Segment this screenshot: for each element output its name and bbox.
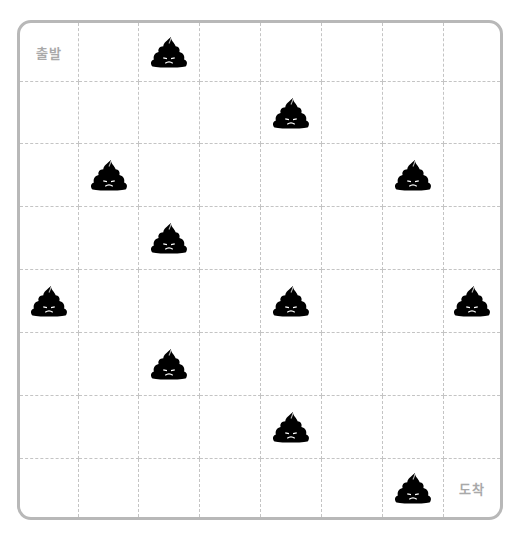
grid-cell[interactable] <box>261 270 322 333</box>
poop-icon <box>272 410 310 444</box>
grid-cell[interactable] <box>79 333 139 396</box>
start-label: 출발 <box>36 43 62 62</box>
grid-cell[interactable] <box>79 82 139 144</box>
grid-cell[interactable] <box>79 23 139 82</box>
grid-cell[interactable] <box>139 459 200 517</box>
grid-cell[interactable] <box>20 396 79 459</box>
game-board: 출발 <box>17 20 503 520</box>
grid-cell[interactable] <box>139 333 200 396</box>
grid-cell[interactable] <box>383 396 444 459</box>
grid-cell[interactable] <box>200 270 261 333</box>
grid-cell[interactable] <box>444 82 500 144</box>
grid-cell[interactable] <box>322 333 383 396</box>
grid-cell[interactable] <box>261 333 322 396</box>
grid-cell[interactable] <box>79 270 139 333</box>
grid-cell[interactable] <box>200 333 261 396</box>
grid-cell[interactable] <box>20 459 79 517</box>
grid-cell[interactable] <box>20 144 79 207</box>
grid-cell[interactable] <box>322 270 383 333</box>
grid-cell[interactable] <box>79 396 139 459</box>
grid-cell[interactable] <box>444 270 500 333</box>
grid-cell[interactable] <box>79 144 139 207</box>
grid-cell[interactable] <box>444 207 500 270</box>
grid-cell[interactable] <box>139 144 200 207</box>
grid-cell[interactable] <box>261 207 322 270</box>
end-label: 도착 <box>459 479 485 498</box>
grid-cell[interactable] <box>20 207 79 270</box>
grid-cell[interactable] <box>200 23 261 82</box>
grid-cell[interactable] <box>383 207 444 270</box>
poop-icon <box>453 284 491 318</box>
grid-cell[interactable]: 도착 <box>444 459 500 517</box>
grid-cell[interactable] <box>79 207 139 270</box>
grid-cell[interactable] <box>139 396 200 459</box>
poop-icon <box>150 35 188 69</box>
grid-cell[interactable] <box>200 396 261 459</box>
grid-cell[interactable] <box>383 144 444 207</box>
grid-cell[interactable] <box>322 459 383 517</box>
grid-cell[interactable] <box>200 207 261 270</box>
grid-cell[interactable] <box>322 396 383 459</box>
grid-cell[interactable] <box>383 333 444 396</box>
grid-cell[interactable] <box>322 207 383 270</box>
grid-cell[interactable] <box>444 333 500 396</box>
grid-cell[interactable] <box>20 270 79 333</box>
grid-cell[interactable] <box>200 459 261 517</box>
grid-cell[interactable] <box>261 82 322 144</box>
grid-cell[interactable] <box>20 82 79 144</box>
grid-cell[interactable] <box>322 82 383 144</box>
grid-cell[interactable] <box>79 459 139 517</box>
grid-cell[interactable] <box>383 270 444 333</box>
grid-cell[interactable] <box>200 144 261 207</box>
grid-cell[interactable] <box>139 207 200 270</box>
grid-cell[interactable] <box>322 23 383 82</box>
poop-icon <box>150 347 188 381</box>
grid-cell[interactable] <box>261 23 322 82</box>
grid-cell[interactable] <box>444 23 500 82</box>
grid-cell[interactable] <box>20 333 79 396</box>
poop-icon <box>272 96 310 130</box>
grid-cell[interactable] <box>139 270 200 333</box>
grid-cell[interactable] <box>200 82 261 144</box>
grid-cell[interactable] <box>383 23 444 82</box>
grid-cell[interactable] <box>383 82 444 144</box>
grid-cell[interactable] <box>139 82 200 144</box>
poop-icon <box>394 158 432 192</box>
poop-icon <box>30 284 68 318</box>
grid-cell[interactable] <box>444 396 500 459</box>
grid-cell[interactable] <box>383 459 444 517</box>
grid-cell[interactable] <box>322 144 383 207</box>
grid-cell[interactable]: 출발 <box>20 23 79 82</box>
poop-icon <box>90 158 128 192</box>
grid-cell[interactable] <box>261 459 322 517</box>
grid-cell[interactable] <box>444 144 500 207</box>
grid-cell[interactable] <box>139 23 200 82</box>
grid-cell[interactable] <box>261 396 322 459</box>
poop-icon <box>394 471 432 505</box>
poop-icon <box>150 221 188 255</box>
grid-cell[interactable] <box>261 144 322 207</box>
poop-icon <box>272 284 310 318</box>
